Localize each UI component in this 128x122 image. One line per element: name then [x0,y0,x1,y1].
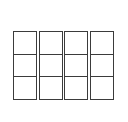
grid-cell-r1c1[interactable] [14,32,36,55]
grid-column-1 [13,31,37,100]
grid-cell-r2c3[interactable] [65,55,87,78]
grid-cell-r1c4[interactable] [91,32,113,55]
grid-column-2 [39,31,63,100]
grid-cell-r3c2[interactable] [40,77,62,99]
grid-cell-r2c1[interactable] [14,55,36,78]
grid-cell-r1c2[interactable] [40,32,62,55]
grid-cell-r3c1[interactable] [14,77,36,99]
grid-cell-r1c3[interactable] [65,32,87,55]
grid-cell-r2c4[interactable] [91,55,113,78]
grid-column-4 [90,31,114,100]
grid-cell-r3c3[interactable] [65,77,87,99]
grid-diagram [13,31,114,100]
grid-cell-r3c4[interactable] [91,77,113,99]
grid-cell-r2c2[interactable] [40,55,62,78]
grid-column-3 [64,31,88,100]
